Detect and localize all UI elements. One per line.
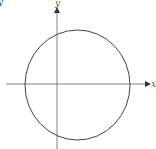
y-axis-label: y: [55, 0, 60, 8]
corner-mark: y: [0, 0, 3, 7]
x-axis-label: x: [151, 80, 156, 89]
circle-curve: [25, 30, 130, 140]
circle-diagram: [0, 0, 156, 149]
